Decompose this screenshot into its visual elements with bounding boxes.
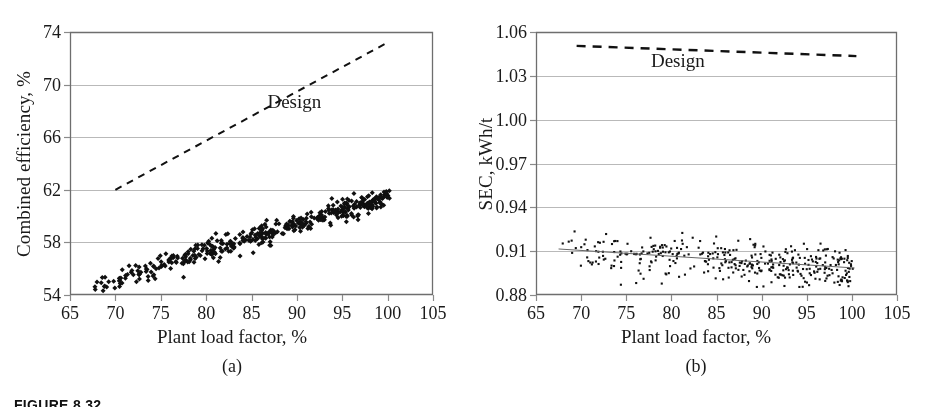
y-tick-label: 1.06 [496,23,528,41]
y-tick-label: 0.97 [496,155,528,173]
x-tick-label: 105 [867,304,927,322]
y-tick-label: 0.88 [496,286,528,304]
x-tick-label: 105 [403,304,463,322]
y-tick-label: 0.91 [496,242,528,260]
y-tick-label: 74 [43,23,61,41]
panel-caption-b: (b) [464,356,928,377]
y-tick-label: 1.00 [496,111,528,129]
x-axis-label-b: Plant load factor, % [464,326,928,348]
y-tick-label: 58 [43,233,61,251]
y-tick-label: 0.94 [496,198,528,216]
x-axis-label-a: Plant load factor, % [0,326,464,348]
figure-caption: FIGURE 8.32 [14,397,101,407]
y-tick-label: 66 [43,128,61,146]
design-series-annotation-a: Design [267,91,321,113]
y-tick-label: 54 [43,286,61,304]
y-tick-label: 70 [43,76,61,94]
y-axis-label-a: Combined efficiency, % [13,71,35,257]
figure-container: Combined efficiency, % Plant load factor… [0,0,928,407]
chart-panel-a: Combined efficiency, % Plant load factor… [0,0,464,407]
y-tick-label: 62 [43,181,61,199]
panel-caption-a: (a) [0,356,464,377]
y-tick-label: 1.03 [496,67,528,85]
chart-panel-b: SEC, kWh/t Plant load factor, % (b) Desi… [464,0,928,407]
design-series-annotation-b: Design [651,50,705,72]
y-axis-label-b: SEC, kWh/t [475,117,497,210]
